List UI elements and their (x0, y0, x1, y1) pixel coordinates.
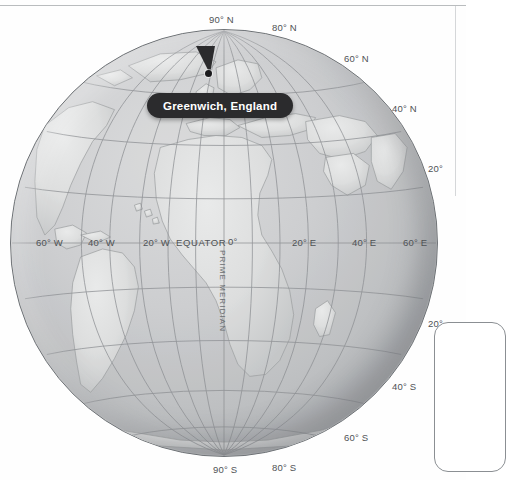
lon-label-60w: 60° W (36, 237, 63, 248)
lat-label-80s: 80° S (272, 462, 296, 473)
lat-label-90s: 90° S (213, 464, 237, 475)
lon-label-20e: 20° E (292, 237, 316, 248)
page-top-rule (0, 5, 466, 6)
lat-label-20n: 20° (428, 163, 443, 174)
equator-label: EQUATOR (176, 237, 226, 248)
location-callout[interactable]: Greenwich, England (147, 93, 293, 118)
lat-label-60n: 60° N (344, 53, 369, 64)
lon-label-0: 0° (228, 236, 237, 247)
location-marker-dot[interactable] (205, 70, 212, 77)
lon-label-40w: 40° W (88, 237, 115, 248)
lat-label-60s: 60° S (344, 432, 368, 443)
lat-label-40n: 40° N (392, 103, 417, 114)
lat-label-90n: 90° N (209, 14, 234, 25)
lat-label-40s: 40° S (392, 381, 416, 392)
side-panel (434, 322, 506, 472)
lon-label-60e: 60° E (403, 237, 427, 248)
lat-label-20s: 20° (428, 318, 443, 329)
prime-meridian-label: PRIME MERIDIAN (218, 250, 227, 332)
lat-label-80n: 80° N (272, 22, 297, 33)
location-callout-label: Greenwich, England (163, 100, 277, 112)
lon-label-40e: 40° E (352, 237, 376, 248)
lon-label-20w: 20° W (143, 237, 170, 248)
page-right-rule (455, 6, 456, 196)
